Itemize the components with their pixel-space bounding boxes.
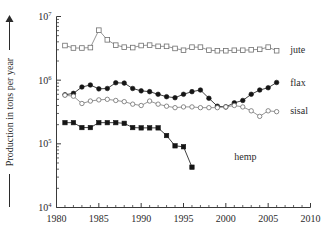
y-tick-label: 106 — [38, 74, 52, 86]
data-point-flax — [190, 89, 195, 94]
data-point-flax — [88, 83, 93, 88]
data-point-flax — [173, 95, 178, 100]
x-tick-label: 1995 — [174, 213, 194, 224]
data-point-hemp — [97, 120, 101, 124]
data-point-sisal — [224, 105, 228, 109]
data-point-jute — [63, 43, 68, 48]
data-point-jute — [164, 44, 169, 49]
data-point-hemp — [114, 120, 118, 124]
data-point-hemp — [105, 120, 109, 124]
data-point-jute — [147, 43, 152, 48]
data-point-flax — [139, 89, 144, 94]
data-point-hemp — [122, 121, 126, 125]
data-point-sisal — [122, 99, 126, 103]
data-point-jute — [156, 44, 161, 49]
data-point-jute — [105, 38, 110, 43]
x-tick-label: 2005 — [258, 213, 278, 224]
data-point-jute — [198, 45, 203, 50]
series-line-flax — [65, 82, 277, 106]
data-point-jute — [97, 28, 102, 33]
y-tick-label: 107 — [38, 10, 52, 22]
y-axis-title: Production in tons per year — [4, 57, 15, 166]
data-point-sisal — [71, 94, 75, 98]
data-point-sisal — [215, 105, 219, 109]
data-point-jute — [190, 45, 195, 50]
data-point-hemp — [63, 120, 67, 124]
data-point-sisal — [266, 109, 270, 113]
data-point-jute — [181, 48, 186, 53]
production-line-chart: 1980198519901995200020052010104105106107… — [0, 0, 325, 249]
data-point-jute — [207, 48, 212, 53]
data-point-sisal — [131, 102, 135, 106]
data-point-sisal — [88, 99, 92, 103]
data-point-jute — [122, 45, 127, 50]
data-point-hemp — [139, 126, 143, 130]
data-point-hemp — [71, 120, 75, 124]
data-point-sisal — [147, 99, 151, 103]
data-point-hemp — [147, 126, 151, 130]
data-point-sisal — [258, 114, 262, 118]
data-point-sisal — [181, 105, 185, 109]
data-point-sisal — [156, 102, 160, 106]
y-tick-label: 105 — [38, 137, 51, 149]
data-point-sisal — [190, 105, 194, 109]
data-point-jute — [232, 48, 237, 53]
data-point-hemp — [190, 165, 194, 169]
data-point-jute — [88, 45, 93, 50]
data-point-jute — [71, 46, 76, 51]
x-tick-label: 1990 — [131, 213, 151, 224]
data-point-jute — [224, 48, 229, 53]
data-point-flax — [249, 92, 254, 97]
data-point-flax — [105, 86, 110, 91]
y-tick-label: 104 — [38, 201, 52, 213]
axis-spines — [57, 17, 311, 208]
data-point-flax — [240, 98, 245, 103]
chart-axes — [57, 17, 311, 208]
data-point-jute — [274, 48, 279, 53]
chart-series-group — [63, 28, 279, 170]
data-point-flax — [207, 96, 212, 101]
chart-page: 1980198519901995200020052010104105106107… — [0, 0, 325, 249]
chart-text-labels: 1980198519901995200020052010104105106107… — [4, 10, 321, 224]
data-point-flax — [181, 92, 186, 97]
data-point-sisal — [80, 101, 84, 105]
data-point-jute — [215, 48, 220, 53]
data-point-jute — [249, 47, 254, 52]
data-point-flax — [113, 80, 118, 85]
data-point-sisal — [207, 105, 211, 109]
data-point-sisal — [63, 93, 67, 97]
data-point-flax — [156, 92, 161, 97]
series-label-flax: flax — [290, 77, 306, 88]
data-point-hemp — [181, 145, 185, 149]
data-point-hemp — [88, 125, 92, 129]
data-point-jute — [240, 48, 245, 53]
y-axis-arrow-icon — [6, 15, 14, 22]
x-tick-label: 1980 — [47, 213, 67, 224]
x-tick-label: 2010 — [301, 213, 321, 224]
series-label-sisal: sisal — [290, 105, 308, 116]
series-label-jute: jute — [289, 44, 306, 55]
data-point-sisal — [97, 98, 101, 102]
data-point-jute — [266, 45, 271, 50]
data-point-jute — [257, 47, 262, 52]
data-point-sisal — [139, 103, 143, 107]
data-point-sisal — [114, 98, 118, 102]
data-point-sisal — [249, 109, 253, 113]
data-point-sisal — [232, 103, 236, 107]
data-point-hemp — [131, 125, 135, 129]
data-point-sisal — [105, 97, 109, 101]
data-point-flax — [274, 80, 279, 85]
data-point-flax — [130, 86, 135, 91]
data-point-sisal — [173, 105, 177, 109]
data-point-hemp — [164, 133, 168, 137]
data-point-jute — [130, 45, 135, 50]
data-point-sisal — [241, 105, 245, 109]
data-point-flax — [80, 85, 85, 90]
data-point-flax — [266, 85, 271, 90]
data-point-jute — [139, 43, 144, 48]
data-point-flax — [198, 88, 203, 93]
data-point-flax — [164, 94, 169, 99]
data-point-jute — [80, 46, 85, 51]
series-label-hemp: hemp — [234, 151, 256, 162]
data-point-jute — [173, 46, 178, 51]
